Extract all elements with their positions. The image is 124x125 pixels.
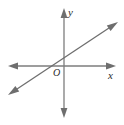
plotted-line [8,22,118,95]
plotted-line-upper-right-arrowhead [107,22,118,31]
origin-label: O [53,68,60,78]
x-axis-left-arrowhead [8,63,18,70]
y-axis-top-arrowhead [61,8,68,18]
plotted-line-segment [14,26,112,91]
coordinate-plane-figure: y x O [0,0,124,125]
y-axis [61,8,68,118]
x-axis [8,63,116,70]
x-axis-label: x [108,70,113,81]
coordinate-plane-svg [0,0,124,125]
plotted-line-lower-left-arrowhead [8,86,19,95]
y-axis-label: y [68,7,73,18]
y-axis-bottom-arrowhead [61,108,68,118]
